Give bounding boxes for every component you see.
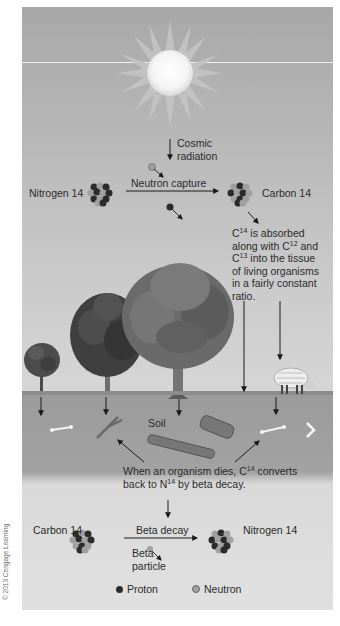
- copyright-notice: © 2013 Cengage Learning: [2, 524, 9, 600]
- beta-particle-label: Beta particle: [132, 547, 166, 572]
- label-layer: Cosmic radiation Nitrogen 14 Neutron cap…: [22, 7, 333, 610]
- nitrogen-14-decay-label: Nitrogen 14: [243, 524, 297, 537]
- carbon-14-decay-label: Carbon 14: [33, 524, 82, 537]
- legend-neutron: Neutron: [192, 583, 241, 596]
- cosmic-radiation-label: Cosmic radiation: [177, 137, 217, 162]
- neutron-capture-label: Neutron capture: [131, 177, 206, 190]
- nitrogen-14-label: Nitrogen 14: [29, 187, 83, 200]
- absorption-note: C14 is absorbed along with C12 and C13 i…: [232, 227, 319, 302]
- decay-note: When an organism dies, C14 converts back…: [123, 465, 297, 490]
- legend-proton: Proton: [116, 583, 158, 596]
- soil-label: Soil: [148, 417, 166, 430]
- diagram-frame: Cosmic radiation Nitrogen 14 Neutron cap…: [22, 7, 333, 610]
- cosmic-radiation-line1: Cosmic: [177, 137, 217, 150]
- carbon-14-label: Carbon 14: [262, 187, 311, 200]
- proton-dot-icon: [116, 586, 123, 593]
- cosmic-radiation-line2: radiation: [177, 150, 217, 163]
- beta-decay-label: Beta decay: [136, 524, 189, 537]
- neutron-dot-icon: [192, 585, 200, 593]
